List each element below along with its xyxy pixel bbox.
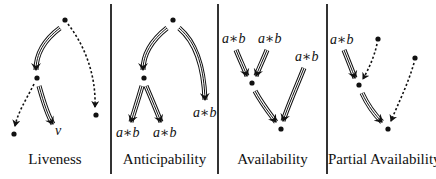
panel-divider (217, 4, 219, 174)
node-mid (356, 82, 361, 87)
node-mid (141, 75, 146, 80)
expr-label: a∗b (330, 31, 354, 48)
expr-label: a∗b (222, 30, 246, 47)
node-top-left (375, 36, 380, 41)
panel-availability-graph (236, 50, 304, 132)
panel-title-anticipability: Anticipability (112, 151, 217, 168)
expr-label: a∗b (116, 124, 140, 141)
panel-title-partial-availability: Partial Availability (328, 151, 436, 168)
node-mid (249, 80, 254, 85)
panel-title-availability: Availability (219, 151, 326, 168)
panel-divider (326, 4, 328, 174)
node-top (170, 17, 175, 22)
node-mid (34, 75, 39, 80)
node-left-bottom (11, 131, 16, 136)
expr-label: a∗b (153, 124, 177, 141)
panel-title-liveness: Liveness (0, 151, 110, 168)
panel-partial-availability-graph (344, 36, 418, 131)
expr-label: a∗b (295, 48, 319, 65)
expr-label: a∗b (258, 30, 282, 47)
data-flow-properties-figure: .tri-outer { fill:none; stroke:#111; str… (0, 0, 436, 179)
node-top (62, 17, 67, 22)
node-right-bottom (93, 112, 98, 117)
node-bottom (385, 126, 390, 131)
expr-label: a∗b (193, 104, 217, 121)
panel-liveness-graph (11, 17, 98, 136)
node-label-v: v (55, 123, 61, 139)
node-bottom (278, 126, 283, 131)
node-top-right (412, 55, 417, 60)
panel-divider (110, 4, 112, 174)
